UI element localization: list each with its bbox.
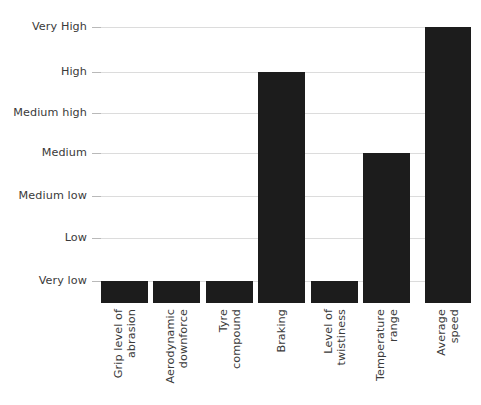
x-axis-tick-label-line2: compound	[230, 309, 243, 369]
x-axis-tick: Average speed	[425, 305, 471, 405]
y-axis-tick-mark	[92, 238, 101, 239]
y-axis-tick-label: Low	[65, 232, 87, 243]
bars-layer	[101, 0, 471, 305]
bar[interactable]	[311, 281, 358, 303]
y-axis-tick-mark	[92, 27, 101, 28]
x-axis-tick-label: Grip level of abrasion	[112, 309, 137, 378]
y-axis-tick-label: Medium low	[19, 190, 87, 201]
y-axis-tick-mark	[92, 72, 101, 73]
bar[interactable]	[153, 281, 200, 303]
x-axis-tick-label-line1: Braking	[274, 309, 287, 353]
x-axis-tick-label-line1: Average	[435, 309, 448, 356]
bar-chart: Very High High Medium high Medium Medium…	[0, 0, 481, 405]
x-axis-tick-label: Braking	[275, 309, 288, 353]
x-axis-tick-label-line2: twistiness	[335, 309, 348, 366]
x-axis-tick-label: Level of twistiness	[322, 309, 347, 366]
x-axis-tick-label-line2: speed	[448, 309, 461, 356]
x-axis-tick-label: Temperature range	[374, 309, 399, 381]
bar[interactable]	[258, 72, 305, 303]
plot-area	[101, 0, 471, 305]
x-axis-tick: Temperature range	[363, 305, 410, 405]
x-axis-tick-label-line2: range	[387, 309, 400, 381]
x-axis-tick-label: Average speed	[436, 309, 461, 356]
bar[interactable]	[101, 281, 148, 303]
x-axis-tick: Tyre compound	[206, 305, 253, 405]
x-axis-tick-label-line1: Tyre	[216, 309, 229, 332]
y-axis-tick-label: Very low	[39, 275, 87, 286]
y-axis-tick-mark	[92, 281, 101, 282]
x-axis-tick: Aerodynamic downforce	[153, 305, 200, 405]
y-axis: Very High High Medium high Medium Medium…	[0, 0, 101, 305]
bar[interactable]	[363, 153, 410, 303]
y-axis-tick-mark	[92, 196, 101, 197]
y-axis-tick-label: Very High	[32, 21, 87, 32]
x-axis: Grip level of abrasion Aerodynamic downf…	[101, 305, 471, 405]
x-axis-tick-label-line1: Grip level of	[111, 309, 124, 378]
x-axis-tick-label: Aerodynamic downforce	[164, 309, 189, 383]
bar[interactable]	[206, 281, 253, 303]
x-axis-tick-label-line1: Level of	[321, 309, 334, 354]
x-axis-tick-label-line1: Aerodynamic	[163, 309, 176, 383]
y-axis-tick-label: Medium	[42, 147, 87, 158]
x-axis-tick: Braking	[258, 305, 305, 405]
x-axis-tick-label: Tyre compound	[217, 309, 242, 369]
bar[interactable]	[425, 27, 471, 303]
x-axis-tick: Level of twistiness	[311, 305, 358, 405]
x-axis-tick-label-line2: downforce	[177, 309, 190, 383]
y-axis-tick-mark	[92, 153, 101, 154]
y-axis-tick-label: High	[61, 66, 87, 77]
x-axis-tick: Grip level of abrasion	[101, 305, 148, 405]
x-axis-tick-label-line2: abrasion	[125, 309, 138, 378]
y-axis-tick-mark	[92, 113, 101, 114]
y-axis-tick-label: Medium high	[13, 107, 87, 118]
x-axis-tick-label-line1: Temperature	[373, 309, 386, 381]
